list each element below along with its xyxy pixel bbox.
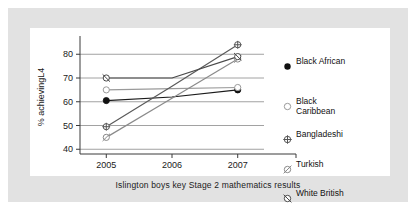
legend-item-2[interactable]: Black Caribbean bbox=[283, 96, 335, 116]
series-line bbox=[106, 45, 237, 127]
filled-circle-shape bbox=[284, 63, 290, 69]
legend-marker-slash-circle bbox=[283, 160, 292, 169]
line-chart: 4050607080200520062007% achievingL4 bbox=[30, 28, 390, 176]
open-circle-icon bbox=[235, 84, 241, 90]
series-line bbox=[106, 57, 237, 78]
open-circle-icon bbox=[103, 87, 109, 93]
figure-caption: Islington boys key Stage 2 mathematics r… bbox=[8, 180, 408, 190]
open-circle-icon bbox=[283, 102, 292, 111]
x-tick-label: 2005 bbox=[96, 160, 116, 170]
open-circle-shape bbox=[284, 103, 290, 109]
series-5 bbox=[106, 57, 237, 78]
y-tick-label: 40 bbox=[63, 144, 73, 154]
legend-marker-backslash-circle bbox=[283, 189, 292, 198]
legend-marker-open-circle bbox=[283, 97, 292, 106]
series-line bbox=[106, 88, 237, 90]
data-point-marker-5-0 bbox=[103, 74, 110, 81]
series-1 bbox=[106, 90, 237, 101]
y-tick-label: 60 bbox=[63, 97, 73, 107]
series-line bbox=[106, 90, 237, 101]
x-tick-label: 2007 bbox=[228, 160, 248, 170]
data-point-marker-3-0 bbox=[102, 123, 110, 131]
filled-circle-icon bbox=[103, 97, 109, 103]
data-point-marker-4-0 bbox=[103, 134, 110, 141]
slash-circle-icon bbox=[283, 165, 292, 174]
legend-label: Black African bbox=[296, 56, 345, 66]
chart-panel: 4050607080200520062007% achievingL4 Blac… bbox=[30, 28, 390, 176]
series-3 bbox=[106, 45, 237, 127]
legend-label: Black Caribbean bbox=[296, 96, 335, 116]
legend-marker-crosshair-circle bbox=[283, 130, 292, 139]
series-2 bbox=[106, 88, 237, 90]
legend-label: Turkish bbox=[296, 159, 324, 169]
y-tick-label: 80 bbox=[63, 49, 73, 59]
backslash-circle-icon bbox=[283, 194, 292, 203]
y-tick-label: 50 bbox=[63, 121, 73, 131]
data-point-marker-2-0 bbox=[103, 87, 109, 93]
crosshair-circle-icon bbox=[283, 135, 292, 144]
legend-label: Bangladeshi bbox=[296, 129, 343, 139]
legend-item-1[interactable]: Black African bbox=[283, 56, 345, 66]
data-point-marker-1-0 bbox=[103, 97, 109, 103]
filled-circle-icon bbox=[283, 62, 292, 71]
y-tick-label: 70 bbox=[63, 73, 73, 83]
legend-item-4[interactable]: Turkish bbox=[283, 159, 324, 169]
data-point-marker-2-2 bbox=[235, 84, 241, 90]
y-axis-title: % achievingL4 bbox=[36, 68, 46, 127]
legend-marker-filled-circle bbox=[283, 57, 292, 66]
figure-frame: 4050607080200520062007% achievingL4 Blac… bbox=[8, 8, 408, 202]
x-tick-label: 2006 bbox=[162, 160, 182, 170]
data-point-marker-3-2 bbox=[234, 41, 242, 49]
legend-item-3[interactable]: Bangladeshi bbox=[283, 129, 343, 139]
